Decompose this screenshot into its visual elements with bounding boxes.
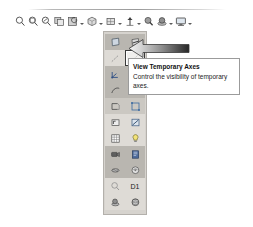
flyout-button-view-sketch-dimensions[interactable] (105, 146, 125, 162)
view-parting-lines-icon (130, 117, 141, 128)
hide-show-items-icon[interactable] (123, 14, 136, 28)
flyout-button-view-origins[interactable] (105, 66, 125, 82)
view-origins-icon (110, 69, 121, 80)
tooltip: View Temporary Axes Control the visibili… (128, 58, 240, 95)
zoom-to-selection-icon[interactable] (53, 14, 66, 28)
view-3d-sketches-icon (110, 101, 121, 112)
view-grid-icon (110, 133, 121, 144)
view-axes-icon (110, 53, 121, 64)
view-sketch-relations-icon (130, 101, 141, 112)
display-style-icon[interactable] (104, 14, 117, 28)
view-orientation-icon[interactable] (85, 14, 98, 28)
pointer-arrow (128, 38, 190, 59)
view-scene-icon (130, 197, 141, 208)
flyout-button-view-sketch-relations[interactable] (125, 98, 145, 114)
view-all-annotations-icon (130, 149, 141, 160)
edit-appearance-icon[interactable] (142, 14, 155, 28)
flyout-button-view-decals[interactable] (125, 162, 145, 178)
view-lights-icon (130, 133, 141, 144)
view-settings-chevron-down-icon[interactable] (187, 14, 193, 28)
view-settings-icon[interactable] (174, 14, 187, 28)
flyout-button-view-scene[interactable] (125, 194, 145, 210)
view-decals-icon (130, 165, 141, 176)
zoom-to-area-icon[interactable] (27, 14, 40, 28)
view-toolbar (14, 13, 193, 29)
view-routing-points-icon (110, 117, 121, 128)
flyout-button-view-hidden-edges[interactable] (105, 178, 125, 194)
flyout-button-view-axes[interactable] (105, 50, 125, 66)
flyout-button-view-dimension-names[interactable]: D1 (125, 178, 145, 194)
flyout-button-view-weld-beads[interactable] (105, 162, 125, 178)
apply-scene-icon[interactable] (155, 14, 168, 28)
view-planes-icon (110, 37, 121, 48)
flyout-button-view-appearances[interactable] (105, 194, 125, 210)
view-cameras-icon (110, 149, 121, 160)
flyout-button-view-planes[interactable] (105, 34, 125, 50)
flyout-button-view-routing-points[interactable] (105, 114, 125, 130)
zoom-to-fit-icon[interactable] (14, 14, 27, 28)
flyout-button-view-all-annotations[interactable] (125, 146, 145, 162)
view-weld-beads-icon (110, 165, 121, 176)
flyout-button-view-lights[interactable] (105, 130, 125, 146)
tooltip-title: View Temporary Axes (133, 62, 235, 71)
flyout-button-view-3d-sketches[interactable] (105, 98, 125, 114)
flyout-button-view-parting-lines[interactable] (125, 114, 145, 130)
flyout-button-view-cameras[interactable] (125, 130, 145, 146)
zoom-in-out-icon[interactable] (40, 14, 53, 28)
toolbar-separator-rule (28, 9, 226, 10)
view-appearances-icon (110, 197, 121, 208)
flyout-button-view-curves[interactable] (105, 82, 125, 98)
rotate-view-icon[interactable] (66, 14, 79, 28)
tooltip-description: Control the visibility of temporary axes… (133, 72, 235, 90)
view-hidden-edges-icon (110, 181, 121, 192)
dimension-name-label: D1 (131, 183, 140, 190)
view-curves-icon (110, 85, 121, 96)
